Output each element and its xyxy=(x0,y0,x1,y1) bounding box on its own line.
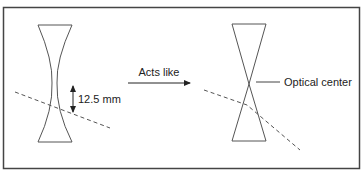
concave-lens xyxy=(38,25,72,142)
measurement-label: 12.5 mm xyxy=(78,93,121,105)
acts-like-label: Acts like xyxy=(139,66,180,78)
optical-center-label: Optical center xyxy=(284,76,352,88)
diagram-frame: 12.5 mm Acts like Optical center xyxy=(0,0,364,175)
diagram-canvas: 12.5 mm Acts like Optical center xyxy=(0,0,364,175)
